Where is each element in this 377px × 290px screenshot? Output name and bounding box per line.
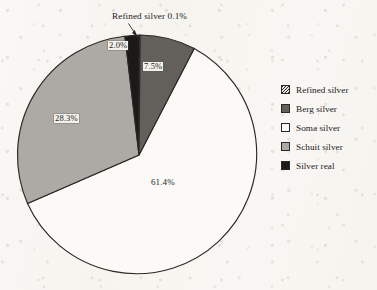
legend-label-berg-silver: Berg silver: [296, 104, 337, 114]
refined-silver-callout-label: Refined silver 0.1%: [112, 11, 187, 21]
legend-label-refined-silver: Refined silver: [296, 85, 349, 95]
slice-value-schuit-silver: 28.3%: [54, 114, 79, 123]
legend-item-silver-real: Silver real: [281, 156, 375, 175]
legend-item-refined-silver: Refined silver: [281, 80, 375, 99]
slice-value-berg-silver: 7.5%: [143, 62, 163, 71]
pie-chart: Refined silver 0.1% 2.0% 7.5% 28.3% 61.4…: [0, 0, 377, 290]
legend-item-soma-silver: Soma silver: [281, 118, 375, 137]
legend-item-schuit-silver: Schuit silver: [281, 137, 375, 156]
legend-label-soma-silver: Soma silver: [296, 123, 340, 133]
white-swatch-icon: [281, 123, 290, 132]
dark-gray-swatch-icon: [281, 104, 290, 113]
slice-value-soma-silver: 61.4%: [151, 177, 175, 187]
legend-label-silver-real: Silver real: [296, 161, 335, 171]
slice-value-silver-real: 2.0%: [108, 41, 128, 50]
hatch-swatch-icon: [281, 85, 290, 94]
chart-legend: Refined silver Berg silver Soma silver S…: [281, 80, 375, 175]
black-swatch-icon: [281, 161, 290, 170]
legend-item-berg-silver: Berg silver: [281, 99, 375, 118]
legend-label-schuit-silver: Schuit silver: [296, 142, 343, 152]
light-gray-swatch-icon: [281, 142, 290, 151]
